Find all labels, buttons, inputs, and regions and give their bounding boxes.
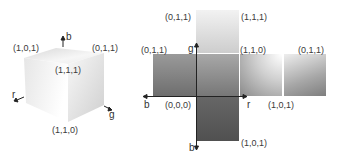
cube-axis-label-b: b <box>66 32 72 42</box>
cube-vertex-label: (1,0,1) <box>13 43 39 53</box>
net-top-face <box>196 10 239 53</box>
net-far-right-face <box>284 54 326 96</box>
cube-vertex-label: (1,1,1) <box>55 65 81 75</box>
net-right-face <box>240 54 282 96</box>
net-vertex-label: (1,0,1) <box>241 138 267 148</box>
net-center-face <box>197 54 239 96</box>
cube-vertex-label: (0,1,1) <box>92 43 118 53</box>
cube-axis-label-g: g <box>109 110 115 120</box>
net-axis-label-b-left: b <box>144 100 150 110</box>
net-vertex-label: (1,1,1) <box>241 12 267 22</box>
net-vertex-label: (0,1,1) <box>141 45 167 55</box>
net-vertex-label: (0,0,0) <box>165 100 191 110</box>
net-bottom-face <box>197 97 239 141</box>
net-vertex-label: (0,1,1) <box>165 12 191 22</box>
cube-vertex-label: (1,1,0) <box>52 125 78 135</box>
cube-axis-label-r: r <box>12 90 15 100</box>
cube-b-axis-arrow <box>61 36 65 47</box>
net-vertex-label: (1,1,0) <box>240 45 266 55</box>
net-vertex-label: (1,0,1) <box>268 100 294 110</box>
net-axis-label-g: g <box>188 44 194 54</box>
rgb-cube-diagram <box>0 0 150 160</box>
net-axis-label-r: r <box>247 100 250 110</box>
net-axis-label-b-down: b <box>189 143 195 153</box>
net-left-face <box>153 54 196 96</box>
net-vertex-label: (0,1,1) <box>298 45 324 55</box>
cube-right-face <box>68 53 104 122</box>
cube-r-axis-arrow <box>14 97 24 102</box>
net-b-arrowhead-down <box>195 146 199 150</box>
